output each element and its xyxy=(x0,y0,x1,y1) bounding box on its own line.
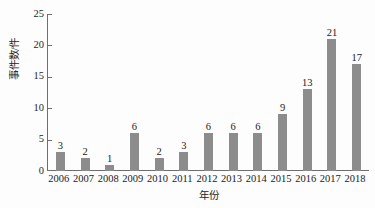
bar-value-label: 13 xyxy=(295,77,319,88)
bar-group[interactable]: 6 xyxy=(221,14,246,171)
bar-2008[interactable] xyxy=(105,165,114,171)
bar-group[interactable]: 1 xyxy=(97,14,122,171)
bar-2006[interactable] xyxy=(56,152,65,171)
bar-value-label: 2 xyxy=(147,146,171,157)
bar-2017[interactable] xyxy=(327,39,336,171)
x-axis-title: 年份 xyxy=(48,189,369,202)
bar-value-label: 3 xyxy=(48,140,72,151)
bar-group[interactable]: 6 xyxy=(196,14,221,171)
x-axis-tick-labels: 2006200720082009201020112012201320142015… xyxy=(48,172,369,187)
x-axis-tick-label: 2018 xyxy=(341,172,369,185)
bar-group[interactable]: 3 xyxy=(171,14,196,171)
bar-2010[interactable] xyxy=(155,158,164,171)
bar-value-label: 6 xyxy=(246,121,270,132)
bar-value-label: 6 xyxy=(122,121,146,132)
bar-chart-figure: 事件数/件 0510152025 3216236669132117 200620… xyxy=(0,0,375,208)
y-axis-tick-mark xyxy=(48,140,52,141)
y-axis-tick-label: 15 xyxy=(18,71,44,81)
bar-2011[interactable] xyxy=(179,152,188,171)
y-axis-tick-label: 0 xyxy=(18,166,44,176)
bar-value-label: 17 xyxy=(345,52,369,63)
bar-group[interactable]: 21 xyxy=(320,14,345,171)
bar-value-label: 6 xyxy=(221,121,245,132)
y-axis-tick-label: 5 xyxy=(18,134,44,144)
y-axis-tick-label: 20 xyxy=(18,40,44,50)
bar-value-label: 21 xyxy=(320,27,344,38)
y-axis-tick-label: 25 xyxy=(18,9,44,19)
y-axis-tick-labels: 0510152025 xyxy=(18,0,44,208)
y-axis-tick-mark xyxy=(48,77,52,78)
bar-group[interactable]: 9 xyxy=(270,14,295,171)
bar-2013[interactable] xyxy=(229,133,238,171)
bar-group[interactable]: 3 xyxy=(48,14,73,171)
bar-value-label: 2 xyxy=(73,146,97,157)
bar-group[interactable]: 13 xyxy=(295,14,320,171)
bar-2009[interactable] xyxy=(130,133,139,171)
bar-2012[interactable] xyxy=(204,133,213,171)
bar-group[interactable]: 2 xyxy=(147,14,172,171)
y-axis-tick-mark xyxy=(48,14,52,15)
bar-2018[interactable] xyxy=(352,64,361,171)
bar-value-label: 9 xyxy=(271,102,295,113)
bar-2016[interactable] xyxy=(303,89,312,171)
y-axis-tick-mark xyxy=(48,45,52,46)
y-axis-tick-label: 10 xyxy=(18,103,44,113)
bar-2014[interactable] xyxy=(253,133,262,171)
bar-group[interactable]: 6 xyxy=(122,14,147,171)
bar-group[interactable]: 17 xyxy=(344,14,369,171)
bar-2015[interactable] xyxy=(278,114,287,171)
bar-value-label: 6 xyxy=(196,121,220,132)
bar-value-label: 3 xyxy=(172,140,196,151)
bar-group[interactable]: 2 xyxy=(73,14,98,171)
y-axis-tick-mark xyxy=(48,108,52,109)
bar-2007[interactable] xyxy=(81,158,90,171)
bar-value-label: 1 xyxy=(98,153,122,164)
plot-area: 3216236669132117 xyxy=(48,14,369,171)
bar-group[interactable]: 6 xyxy=(246,14,271,171)
